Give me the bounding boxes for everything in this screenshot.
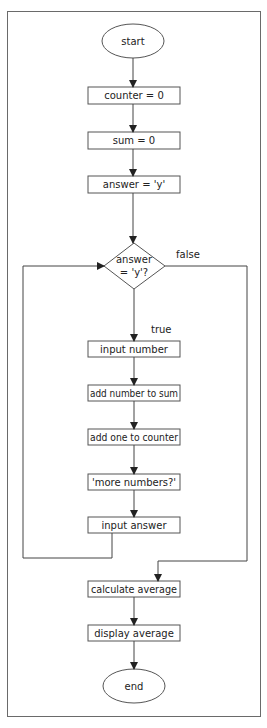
edge-decision-false xyxy=(158,266,247,581)
add-one-to-counter-label: add one to counter xyxy=(90,432,179,443)
display-average-label: display average xyxy=(94,628,174,639)
decision-node xyxy=(104,243,165,289)
input-answer-label: input answer xyxy=(101,520,167,531)
calculate-average-label: calculate average xyxy=(91,584,177,595)
sum-init-label: sum = 0 xyxy=(113,135,155,146)
flowchart-canvas: start counter = 0 sum = 0 answer = 'y' a… xyxy=(0,0,267,728)
answer-init-label: answer = 'y' xyxy=(103,179,165,190)
end-label: end xyxy=(125,681,144,692)
edge-loop-back xyxy=(23,266,112,558)
decision-label-line1: answer xyxy=(116,254,153,265)
false-branch-label: false xyxy=(176,249,200,260)
true-branch-label: true xyxy=(151,324,172,335)
decision-label-line2: = 'y'? xyxy=(120,267,148,278)
counter-init-label: counter = 0 xyxy=(104,90,164,101)
input-number-label: input number xyxy=(100,344,169,355)
start-label: start xyxy=(121,36,144,47)
add-number-to-sum-label: add number to sum xyxy=(90,388,178,399)
more-numbers-label: 'more numbers?' xyxy=(92,477,176,488)
